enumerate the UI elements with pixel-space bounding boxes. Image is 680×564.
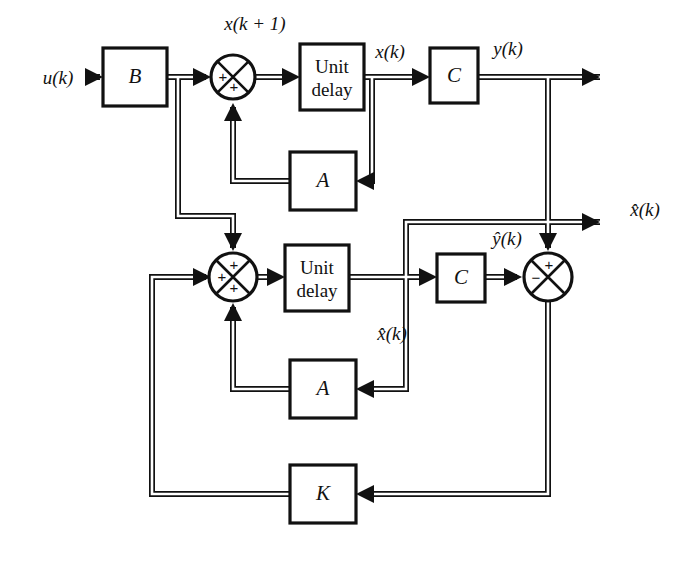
- block-a-observer-label: A: [315, 376, 330, 400]
- arrowhead-into-c-observer: [419, 268, 437, 286]
- label-input-u: u(k): [43, 67, 74, 89]
- arrowhead-into-a-plant: [356, 172, 374, 190]
- unit-delay-observer-label-line1: Unit: [300, 257, 335, 278]
- error-sum-sign-top: +: [545, 256, 554, 273]
- block-gain-c-plant[interactable]: C: [430, 48, 478, 103]
- error-sum-sign-left: −: [532, 269, 541, 286]
- wire-k-to-observersum: [152, 277, 290, 494]
- block-gain-c-observer[interactable]: C: [437, 254, 485, 302]
- block-diagram-canvas: B Unit delay C A Unit delay: [0, 0, 680, 564]
- block-unit-delay-observer[interactable]: Unit delay: [285, 245, 349, 311]
- block-b-label: B: [129, 64, 142, 88]
- block-c-observer-label: C: [454, 265, 469, 289]
- unit-delay-observer-rect: [285, 245, 349, 311]
- arrowhead-into-observersum-top: [224, 233, 242, 251]
- wire-core: [233, 307, 290, 389]
- block-gain-a-observer[interactable]: A: [290, 360, 356, 418]
- wire-b-branch-to-observersum: [178, 77, 233, 248]
- block-gain-b[interactable]: B: [103, 48, 167, 106]
- arrowhead-into-c-plant: [412, 68, 430, 86]
- label-output-y: y(k): [491, 38, 523, 60]
- arrowhead-into-errorsum-top: [539, 233, 557, 251]
- summing-junction-error[interactable]: + −: [524, 253, 572, 301]
- summing-junction-plant[interactable]: + +: [211, 55, 255, 99]
- arrowhead-output-y: [582, 68, 600, 86]
- observer-sum-sign-bottom: +: [230, 279, 239, 296]
- wire-core: [233, 107, 290, 181]
- arrowhead-into-a-observer: [356, 380, 374, 398]
- wire-core: [178, 77, 233, 248]
- wire-obsa-to-observersum: [233, 307, 290, 389]
- block-gain-a-plant[interactable]: A: [290, 152, 356, 210]
- arrowhead-into-k: [356, 485, 374, 503]
- observer-sum-sign-top: +: [230, 256, 239, 273]
- plant-sum-sign-left: +: [219, 68, 228, 85]
- wire-a-to-plantsum: [233, 107, 290, 181]
- arrowhead-into-b: [85, 68, 103, 86]
- arrowhead-into-plantsum-left: [193, 68, 211, 86]
- observer-sum-sign-left: +: [218, 268, 227, 285]
- block-gain-k[interactable]: K: [290, 465, 356, 523]
- label-state-hat-output: x̂(k): [629, 199, 660, 221]
- block-unit-delay-plant[interactable]: Unit delay: [300, 44, 364, 110]
- label-state-next: x(k + 1): [223, 13, 285, 35]
- block-a-plant-label: A: [315, 168, 330, 192]
- summing-junction-observer[interactable]: + + +: [209, 253, 257, 301]
- arrowhead-into-errorsum-left: [504, 268, 522, 286]
- label-output-hat-y: ŷ(k): [490, 228, 522, 250]
- unit-delay-plant-label-line1: Unit: [315, 56, 350, 77]
- label-state-hat-delay: x̂(k): [376, 323, 407, 345]
- unit-delay-plant-rect: [300, 44, 364, 110]
- block-layer: B Unit delay C A Unit delay: [103, 44, 485, 523]
- unit-delay-observer-label-line2: delay: [296, 280, 338, 301]
- label-state-x: x(k): [374, 41, 405, 63]
- arrowhead-into-observersum-bottom: [224, 303, 242, 321]
- arrowhead-into-plantsum-bottom: [224, 103, 242, 121]
- block-c-plant-label: C: [447, 63, 462, 87]
- unit-delay-plant-label-line2: delay: [311, 79, 353, 100]
- arrowhead-output-xhat: [582, 213, 600, 231]
- plant-sum-sign-bottom: +: [230, 78, 239, 95]
- block-k-label: K: [315, 481, 331, 505]
- arrowhead-into-obs-unitdelay: [267, 268, 285, 286]
- observer-block-diagram: B Unit delay C A Unit delay: [0, 0, 680, 564]
- arrowhead-into-unitdelay: [282, 68, 300, 86]
- wire-core: [152, 277, 290, 494]
